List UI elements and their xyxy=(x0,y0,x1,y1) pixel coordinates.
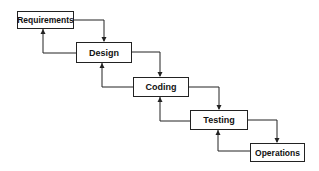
stage-requirements: Requirements xyxy=(17,11,74,29)
stage-coding: Coding xyxy=(133,77,189,97)
waterfall-diagram: Requirements Design Coding Testing Opera… xyxy=(0,0,319,171)
stage-testing: Testing xyxy=(190,110,248,130)
stage-design: Design xyxy=(76,42,132,63)
stage-operations: Operations xyxy=(250,143,305,162)
